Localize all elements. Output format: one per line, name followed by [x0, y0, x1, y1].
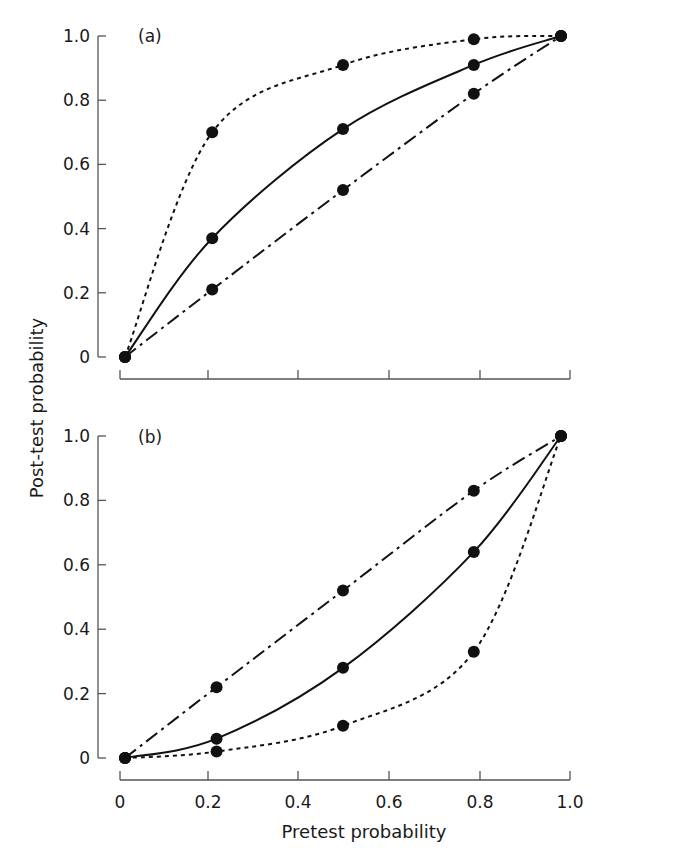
x-tick-label: 0.6 — [375, 792, 402, 812]
y-tick-label: 0.2 — [63, 684, 90, 704]
y-tick-label: 0.2 — [63, 283, 90, 303]
y-tick-label: 0.6 — [63, 555, 90, 575]
data-point — [468, 485, 480, 497]
y-tick-label: 0.8 — [63, 90, 90, 110]
data-point — [555, 430, 567, 442]
data-point — [206, 284, 218, 296]
data-point — [211, 681, 223, 693]
data-point — [468, 33, 480, 45]
data-point — [468, 546, 480, 558]
data-point — [211, 733, 223, 745]
panel-a-x-axis — [120, 370, 570, 379]
panel-b-x-axis: 00.20.40.60.81.0 — [115, 771, 584, 812]
x-tick-label: 0.2 — [194, 792, 221, 812]
series-solid-line — [125, 436, 561, 758]
y-axis-title: Post-test probability — [26, 317, 47, 498]
series-solid-line — [125, 36, 561, 357]
data-point — [337, 123, 349, 135]
data-point — [337, 720, 349, 732]
data-point — [468, 646, 480, 658]
x-tick-label: 0.4 — [284, 792, 311, 812]
data-point — [337, 184, 349, 196]
x-tick-label: 0 — [115, 792, 126, 812]
data-point — [337, 662, 349, 674]
y-tick-label: 0.6 — [63, 154, 90, 174]
y-tick-label: 0 — [79, 347, 90, 367]
panel-b: (b) 00.20.40.60.81.0 00.20.40.60.81.0 — [63, 426, 584, 812]
y-tick-label: 1.0 — [63, 426, 90, 446]
data-point — [555, 30, 567, 42]
data-point — [468, 59, 480, 71]
data-point — [337, 59, 349, 71]
series-dotted-line — [125, 436, 561, 758]
y-tick-label: 0.4 — [63, 619, 90, 639]
data-point — [206, 232, 218, 244]
data-point — [468, 88, 480, 100]
x-axis-title: Pretest probability — [282, 821, 447, 842]
x-tick-label: 1.0 — [556, 792, 583, 812]
series-dash-dot-line — [125, 436, 561, 758]
data-point — [119, 351, 131, 363]
panel-b-series — [119, 430, 567, 764]
panel-a-series — [119, 30, 567, 363]
y-tick-label: 0.4 — [63, 219, 90, 239]
panel-a: (a) 00.20.40.60.81.0 — [63, 26, 570, 379]
data-point — [206, 126, 218, 138]
data-point — [337, 585, 349, 597]
y-tick-label: 1.0 — [63, 26, 90, 46]
y-tick-label: 0 — [79, 748, 90, 768]
series-dash-dot-line — [125, 36, 561, 357]
series-dotted-line — [125, 36, 561, 357]
x-tick-label: 0.8 — [466, 792, 493, 812]
panel-b-label: (b) — [138, 427, 162, 447]
y-tick-label: 0.8 — [63, 490, 90, 510]
panel-a-y-axis: 00.20.40.60.81.0 — [63, 26, 106, 367]
panel-a-label: (a) — [138, 26, 162, 46]
data-point — [211, 746, 223, 758]
panel-b-y-axis: 00.20.40.60.81.0 — [63, 426, 106, 768]
data-point — [119, 752, 131, 764]
figure: Post-test probability (a) 00.20.40.60.81… — [0, 0, 683, 858]
